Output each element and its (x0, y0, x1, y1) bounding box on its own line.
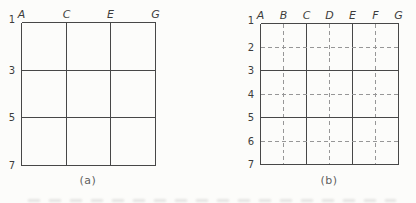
row-label: 5 (248, 113, 254, 123)
row-label: 7 (9, 161, 15, 171)
caption-a: (a) (21, 174, 155, 187)
row-label: 7 (248, 160, 254, 170)
row-label: 2 (248, 43, 254, 53)
column-label: C (63, 9, 71, 20)
grid-lines (21, 22, 156, 166)
cropped-caption-remnant (28, 199, 396, 202)
column-label: C (303, 10, 311, 21)
row-label: 3 (9, 66, 15, 76)
column-label: A (257, 10, 265, 21)
column-label: E (107, 9, 114, 20)
row-label: 5 (9, 113, 15, 123)
row-label: 6 (248, 137, 254, 147)
column-label: G (394, 10, 403, 21)
column-label: F (372, 10, 378, 21)
row-label: 4 (248, 90, 254, 100)
column-label: B (280, 10, 288, 21)
caption-b: (b) (260, 174, 398, 187)
row-label: 3 (248, 66, 254, 76)
figure-stage: (a) (b) ACEG1357ABCDEFG1234567 (0, 0, 416, 203)
row-label: 1 (248, 16, 254, 26)
row-label: 1 (9, 15, 15, 25)
grid-panel-b (260, 23, 398, 164)
column-label: G (151, 9, 160, 20)
column-label: D (325, 10, 333, 21)
grid-lines (260, 23, 399, 165)
column-label: A (18, 9, 26, 20)
column-label: E (349, 10, 356, 21)
grid-panel-a (21, 22, 155, 165)
